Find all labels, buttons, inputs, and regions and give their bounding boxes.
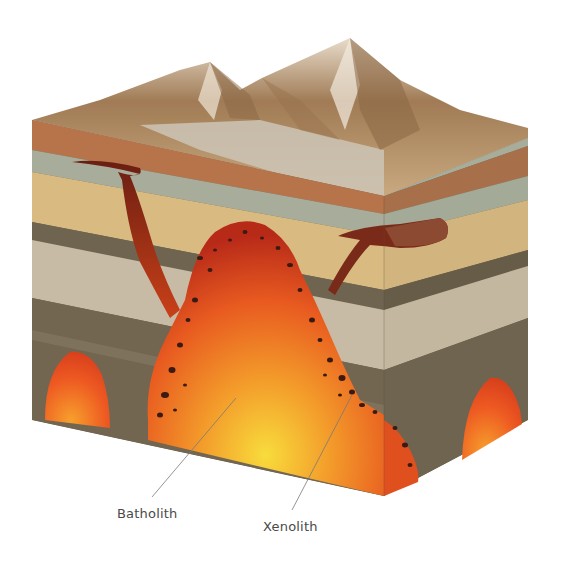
xenolith-label: Xenolith xyxy=(263,519,318,534)
batholith-label: Batholith xyxy=(117,506,178,521)
block-diagram xyxy=(0,0,562,564)
